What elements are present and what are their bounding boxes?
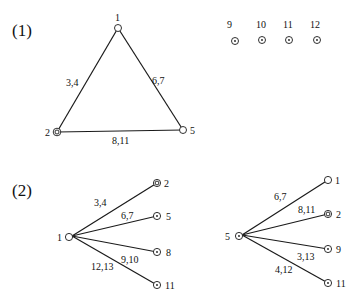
isolated-node-11: 11 (283, 19, 293, 44)
edge-label: 6,7 (121, 210, 134, 221)
leaf-node-1: 1 (324, 175, 340, 186)
svg-text:9: 9 (227, 19, 232, 30)
plain-node-icon (324, 176, 331, 183)
svg-text:11: 11 (165, 280, 175, 291)
edge-label-2-5: 8,11 (112, 135, 129, 146)
svg-text:10: 10 (256, 19, 266, 30)
leaf-node-11: 11 (153, 280, 174, 291)
edge-label: 3,13 (297, 251, 315, 262)
isolated-node-9: 9 (227, 19, 239, 45)
node-1: 1 (115, 12, 122, 32)
svg-text:11: 11 (336, 278, 346, 289)
svg-text:2: 2 (164, 178, 169, 189)
edge-label: 6,7 (274, 191, 287, 202)
svg-text:5: 5 (166, 211, 171, 222)
svg-text:12: 12 (310, 19, 320, 30)
edge-1-5 (118, 28, 183, 130)
center-node-1: 1 (57, 232, 73, 243)
edge-label: 4,12 (275, 264, 293, 275)
plain-node-icon (115, 25, 122, 32)
svg-text:11: 11 (283, 19, 293, 30)
svg-text:9: 9 (336, 244, 341, 255)
plain-node-icon (180, 127, 187, 134)
edge-label-1-5: 6,7 (152, 75, 165, 86)
node-2: 2 (45, 127, 61, 138)
svg-text:1: 1 (57, 232, 62, 243)
isolated-node-10: 10 (256, 19, 266, 44)
node-1-label: 1 (115, 12, 120, 23)
svg-text:2: 2 (336, 209, 341, 220)
svg-text:8: 8 (166, 247, 171, 258)
star-graph-5: 6,7 8,11 3,13 4,12 5 1 2 9 (225, 175, 346, 289)
leaf-node-8: 8 (153, 247, 171, 258)
part-1-label: (1) (12, 21, 32, 40)
star-graph-1: 3,4 6,7 9,10 12,13 1 2 5 8 (57, 178, 175, 291)
part-1: (1) 3,4 6,7 8,11 1 2 5 (12, 12, 321, 146)
triangle-graph: 3,4 6,7 8,11 1 2 5 (45, 12, 195, 146)
edge-label: 9,10 (121, 254, 139, 265)
svg-text:5: 5 (225, 231, 230, 242)
part-2-label: (2) (12, 181, 32, 200)
node-5: 5 (180, 125, 196, 136)
edge-label: 8,11 (298, 204, 315, 215)
node-5-label: 5 (190, 125, 195, 136)
leaf-node-2: 2 (324, 209, 341, 220)
svg-text:1: 1 (335, 175, 340, 186)
edge-label: 3,4 (94, 197, 107, 208)
plain-node-icon (65, 233, 72, 240)
center-node-5: 5 (225, 231, 243, 242)
leaf-node-11: 11 (324, 278, 345, 289)
leaf-node-9: 9 (324, 244, 341, 255)
isolated-node-12: 12 (310, 19, 321, 44)
part-2: (2) 3,4 6,7 9,10 12,13 1 2 5 (12, 175, 346, 291)
edge-label: 12,13 (91, 261, 114, 272)
isolated-nodes: 9 10 11 12 (227, 19, 321, 45)
node-2-label: 2 (45, 127, 50, 138)
leaf-node-5: 5 (153, 211, 171, 222)
leaf-node-2: 2 (153, 178, 169, 189)
diagram-canvas: (1) 3,4 6,7 8,11 1 2 5 (0, 0, 352, 305)
edge-label-1-2: 3,4 (66, 77, 79, 88)
edge-2-5 (57, 130, 183, 132)
